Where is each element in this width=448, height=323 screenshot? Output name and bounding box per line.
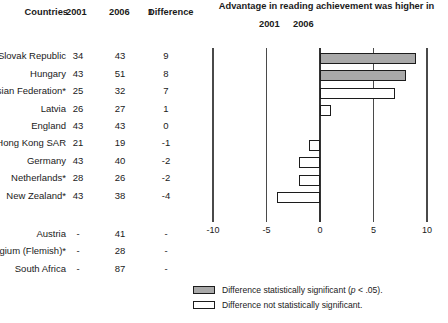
- table-row: Germany4340-2: [0, 152, 200, 169]
- cell-country: Belgium (Flemish)*: [0, 242, 66, 259]
- cell-country: Latvia: [41, 100, 66, 117]
- cell-difference: -4: [155, 187, 177, 204]
- table-row: South Africa-87-: [0, 260, 200, 277]
- cell-2001: 34: [68, 47, 88, 64]
- table-row: Austria-41-: [0, 225, 200, 242]
- cell-2006: 38: [110, 187, 130, 204]
- cell-difference: 0: [155, 117, 177, 134]
- x-tick-label-0: 0: [307, 225, 333, 235]
- cell-difference: -: [155, 260, 177, 277]
- cell-2001: 21: [68, 134, 88, 151]
- chart-subtitle-2001: 2001: [259, 19, 280, 29]
- bar-slovak-republic: [320, 53, 416, 64]
- cell-2006: 19: [110, 134, 130, 151]
- footnote-marker: 1: [148, 4, 153, 21]
- cell-2001: 43: [68, 117, 88, 134]
- cell-difference: -2: [155, 169, 177, 186]
- bar-hungary: [320, 70, 406, 81]
- cell-2001: 43: [68, 187, 88, 204]
- cell-country: Slovak Republic: [0, 47, 66, 64]
- column-header-countries: Countries: [25, 4, 68, 21]
- bar-netherlands-: [299, 175, 320, 186]
- legend-label: Difference statistically significant (p …: [222, 283, 383, 298]
- cell-2006: 43: [110, 47, 130, 64]
- cell-2006: 32: [110, 82, 130, 99]
- cell-country: Germany: [27, 152, 66, 169]
- cell-country: New Zealand*: [6, 187, 66, 204]
- cell-2001: -: [68, 260, 88, 277]
- legend-label-suffix: < .05).: [356, 285, 383, 295]
- legend-swatch-not-significant: [193, 301, 215, 309]
- cell-2001: 43: [68, 65, 88, 82]
- cell-difference: -1: [155, 134, 177, 151]
- cell-country: Austria: [36, 225, 66, 242]
- bar-chart: Advantage in reading achievement was hig…: [200, 0, 448, 323]
- cell-2001: -: [68, 225, 88, 242]
- gridline--5: [266, 48, 267, 222]
- legend-label: Difference not statistically significant…: [222, 298, 362, 313]
- pirls-reading-difference-figure: Countries 2001 2006 Difference1 Slovak R…: [0, 0, 448, 323]
- bar-germany: [299, 157, 320, 168]
- gridline-10: [426, 48, 427, 222]
- bar-russian-federation-: [320, 88, 395, 99]
- plot-area: [200, 48, 448, 222]
- cell-2006: 40: [110, 152, 130, 169]
- cell-2006: 41: [110, 225, 130, 242]
- cell-country: England: [31, 117, 66, 134]
- chart-title: Advantage in reading achievement was hig…: [205, 1, 448, 11]
- x-axis-tick-labels: -10-50510: [200, 222, 448, 238]
- cell-difference: 7: [155, 82, 177, 99]
- table-body-no-data: Austria-41-Belgium (Flemish)*-28-South A…: [0, 225, 200, 277]
- x-tick-label--5: -5: [254, 225, 280, 235]
- table-row: Slovak Republic34439: [0, 47, 200, 64]
- x-tick-label-10: 10: [414, 225, 440, 235]
- column-header-2001: 2001: [66, 4, 86, 21]
- legend-swatch-significant: [193, 286, 215, 294]
- column-header-2006: 2006: [109, 4, 129, 21]
- cell-country: Netherlands*: [11, 169, 66, 186]
- cell-difference: -: [155, 225, 177, 242]
- cell-country: South Africa: [15, 260, 66, 277]
- bar-new-zealand-: [277, 192, 320, 203]
- cell-2006: 27: [110, 100, 130, 117]
- cell-2006: 26: [110, 169, 130, 186]
- table-row: Netherlands*2826-2: [0, 169, 200, 186]
- cell-2006: 28: [110, 242, 130, 259]
- x-tick-label-5: 5: [361, 225, 387, 235]
- table-body-with-data: Slovak Republic34439Hungary43518Russian …: [0, 47, 200, 204]
- cell-country: Hungary: [30, 65, 66, 82]
- table-row: Latvia26271: [0, 100, 200, 117]
- table-row: Belgium (Flemish)*-28-: [0, 242, 200, 259]
- cell-2001: 26: [68, 100, 88, 117]
- cell-country: Russian Federation*: [0, 82, 66, 99]
- x-tick-label--10: -10: [200, 225, 226, 235]
- chart-subtitle-2006: 2006: [293, 19, 314, 29]
- table-row: Hungary43518: [0, 65, 200, 82]
- cell-difference: 9: [155, 47, 177, 64]
- cell-difference: -2: [155, 152, 177, 169]
- gridline--10: [212, 48, 213, 222]
- cell-difference: -: [155, 242, 177, 259]
- cell-2001: 43: [68, 152, 88, 169]
- cell-2006: 51: [110, 65, 130, 82]
- column-header-difference-text: Difference: [148, 4, 193, 21]
- cell-2001: -: [68, 242, 88, 259]
- table-row: England43430: [0, 117, 200, 134]
- bar-latvia: [320, 105, 331, 116]
- cell-2001: 28: [68, 169, 88, 186]
- cell-2001: 25: [68, 82, 88, 99]
- table-row: Hong Kong SAR2119-1: [0, 134, 200, 151]
- cell-2006: 87: [110, 260, 130, 277]
- country-data-table: Countries 2001 2006 Difference1 Slovak R…: [0, 0, 200, 277]
- table-row: New Zealand*4338-4: [0, 187, 200, 204]
- cell-difference: 8: [155, 65, 177, 82]
- bar-hong-kong-sar: [309, 140, 320, 151]
- cell-2006: 43: [110, 117, 130, 134]
- table-header-row: Countries 2001 2006 Difference1: [0, 4, 200, 21]
- legend-label-prefix: Difference statistically significant (: [222, 285, 351, 295]
- cell-difference: 1: [155, 100, 177, 117]
- table-row: Russian Federation*25327: [0, 82, 200, 99]
- cell-country: Hong Kong SAR: [0, 134, 66, 151]
